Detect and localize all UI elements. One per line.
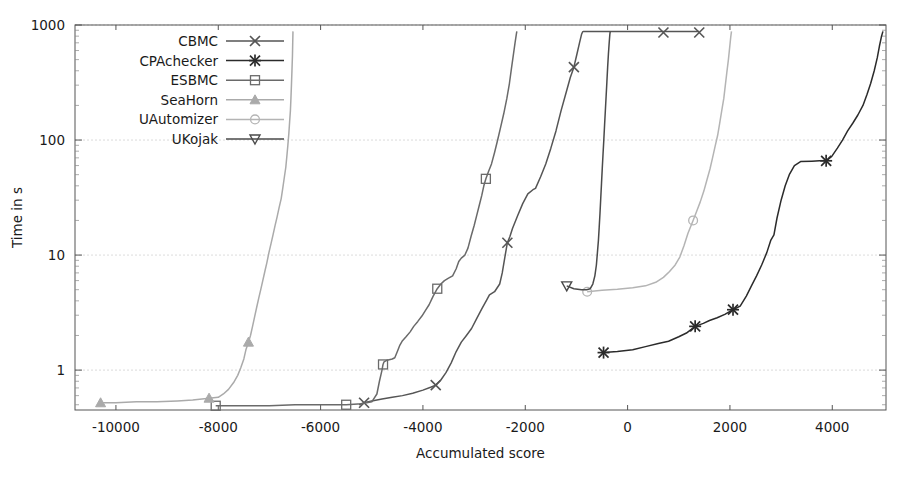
series-marker-cbmc-3 [569,62,579,72]
xtick-label-2000: 2000 [713,419,747,435]
ytick-label-1: 1 [56,362,65,378]
series-marker-cpachecker-2 [727,304,739,316]
ytick-label-1000: 1000 [31,17,65,33]
legend-marker-cpachecker [249,55,261,67]
series-marker-seahorn-2 [243,337,253,346]
series-line-cpachecker [604,31,883,352]
series-marker-cpachecker-0 [598,347,610,359]
xtick-label--2000: -2000 [506,419,545,435]
legend-label-seahorn: SeaHorn [161,92,218,108]
y-axis-label: Time in s [9,187,25,249]
xtick-label-4000: 4000 [815,419,849,435]
series-marker-cpachecker-1 [689,320,701,332]
xtick-label--8000: -8000 [199,419,238,435]
ytick-label-100: 100 [39,132,65,148]
series-marker-cpachecker-3 [820,155,832,167]
legend-label-cbmc: CBMC [178,33,218,49]
xtick-label--4000: -4000 [403,419,442,435]
xtick-label-0: 0 [623,419,632,435]
legend-label-cpachecker: CPAchecker [139,53,218,69]
series-marker-cbmc-1 [431,380,441,390]
series-line-cbmc [359,31,699,404]
series-line-esbmc [216,31,517,405]
xtick-label--6000: -6000 [301,419,340,435]
series-marker-cbmc-4 [658,28,668,38]
legend-label-esbmc: ESBMC [171,72,218,88]
xtick-label--10000: -10000 [92,419,140,435]
x-axis-label: Accumulated score [416,445,545,461]
series-marker-cbmc-5 [694,28,704,38]
quantile-plot: -10000-8000-6000-4000-200002000400011010… [0,0,901,479]
series-line-uautomizer [587,31,731,291]
legend-label-ukojak: UKojak [172,131,218,147]
legend-label-uautomizer: UAutomizer [139,111,219,127]
ytick-label-10: 10 [48,247,65,263]
chart-container: -10000-8000-6000-4000-200002000400011010… [0,0,901,479]
